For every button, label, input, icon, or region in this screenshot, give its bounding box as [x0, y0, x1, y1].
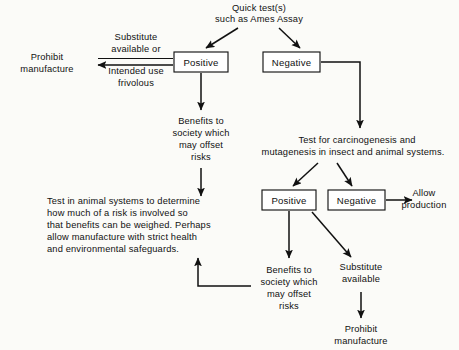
node-allow-production: Allow production — [402, 188, 447, 210]
flowchart-diagram: Quick test(s) such as Ames Assay Positiv… — [0, 0, 459, 350]
prohibit-left-line-2: manufacture — [20, 64, 73, 74]
allow-production-line-1: Allow — [413, 188, 436, 198]
edge-label-substitute-or-intended-use: Substitute available or Intended use fri… — [108, 32, 164, 88]
allow-production-line-2: production — [402, 200, 447, 210]
benefits-upper-line-1: Benefits to — [178, 116, 224, 126]
benefits-upper-line-4: risks — [191, 152, 211, 162]
intended-use-label-line-1: Intended use — [108, 66, 164, 76]
node-prohibit-manufacture-bottom: Prohibit manufacture — [334, 324, 387, 346]
animal-block-line-4: allow manufacture with strict health — [47, 232, 197, 242]
node-carcinogenesis-test: Test for carcinogenesis and mutagenesis … — [262, 135, 445, 157]
edge-carcinogenesis-to-lower-positive — [293, 163, 318, 186]
flowchart-canvas: Quick test(s) such as Ames Assay Positiv… — [0, 0, 459, 350]
animal-block-line-2: how much of a risk is involved so — [47, 208, 188, 218]
edge-carcinogenesis-to-lower-negative — [337, 163, 352, 186]
edge-benefits-lower-to-animal-block — [198, 258, 251, 286]
lower-negative-label: Negative — [337, 195, 376, 206]
prohibit-bottom-line-1: Prohibit — [345, 324, 378, 334]
node-substitute-available: Substitute available — [340, 262, 383, 284]
node-top-positive[interactable]: Positive — [174, 52, 228, 72]
benefits-upper-line-2: society which — [172, 128, 229, 138]
prohibit-left-line-1: Prohibit — [31, 52, 64, 62]
benefits-lower-line-2: society which — [260, 277, 317, 287]
edge-top-negative-to-carcinogenesis — [321, 62, 360, 128]
substitute-label-line-2: available or — [111, 44, 160, 54]
node-lower-positive[interactable]: Positive — [262, 190, 316, 210]
benefits-upper-line-3: may offset — [179, 140, 223, 150]
node-top-negative[interactable]: Negative — [263, 52, 320, 72]
lower-positive-label: Positive — [271, 195, 306, 206]
edge-quicktest-to-top-positive — [206, 28, 238, 48]
animal-block-line-3: that benefits can be weighed. Perhaps — [47, 220, 211, 230]
substitute-available-line-2: available — [342, 274, 380, 284]
intended-use-label-line-2: frivolous — [118, 78, 154, 88]
node-benefits-upper: Benefits to society which may offset ris… — [172, 116, 229, 162]
prohibit-bottom-line-2: manufacture — [334, 336, 387, 346]
carcinogenesis-line-2: mutagenesis in insect and animal systems… — [262, 147, 445, 157]
edge-quicktest-to-top-negative — [279, 28, 300, 48]
benefits-lower-line-3: may offset — [267, 289, 311, 299]
substitute-label-line-1: Substitute — [115, 32, 158, 42]
node-animal-systems-block: Test in animal systems to determine how … — [47, 196, 211, 254]
edge-lower-positive-to-substitute — [312, 212, 351, 257]
top-positive-label: Positive — [183, 57, 218, 68]
quick-test-line-1: Quick test(s) — [232, 3, 286, 13]
animal-block-line-1: Test in animal systems to determine — [47, 196, 200, 206]
animal-block-line-5: and environmental safeguards. — [47, 244, 179, 254]
carcinogenesis-line-1: Test for carcinogenesis and — [298, 135, 415, 145]
benefits-lower-line-1: Benefits to — [266, 265, 312, 275]
node-prohibit-manufacture-left: Prohibit manufacture — [20, 52, 73, 74]
benefits-lower-line-4: risks — [279, 301, 299, 311]
quick-test-line-2: such as Ames Assay — [215, 14, 303, 24]
node-lower-negative[interactable]: Negative — [328, 190, 385, 210]
node-benefits-lower: Benefits to society which may offset ris… — [260, 265, 317, 311]
substitute-available-line-1: Substitute — [340, 262, 383, 272]
node-quick-test: Quick test(s) such as Ames Assay — [215, 3, 303, 24]
top-negative-label: Negative — [272, 57, 311, 68]
